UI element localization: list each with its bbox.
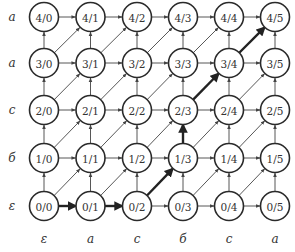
- edge-arrow: [101, 74, 127, 100]
- node-label: 1/3: [175, 153, 192, 165]
- path-edge-bold: [193, 74, 218, 100]
- grid-node: 2/1: [76, 96, 105, 125]
- node-label: 0/3: [175, 201, 192, 213]
- alignment-grid-diagram: 0/00/10/20/30/40/51/01/11/21/31/41/52/02…: [0, 0, 295, 252]
- grid-node: 0/0: [30, 192, 59, 221]
- edge-arrow: [193, 169, 219, 196]
- nodes-layer: 0/00/10/20/30/40/51/01/11/21/31/41/52/02…: [30, 3, 290, 221]
- node-label: 4/4: [221, 12, 238, 24]
- row-label: a: [8, 10, 15, 24]
- grid-node: 0/4: [215, 192, 244, 221]
- column-label: c: [226, 232, 233, 246]
- path-edge-bold: [147, 169, 173, 196]
- node-label: 0/0: [36, 201, 53, 213]
- edge-arrow: [54, 28, 80, 53]
- grid-node: 1/4: [215, 144, 244, 173]
- node-label: 0/5: [267, 201, 284, 213]
- node-label: 1/0: [36, 153, 53, 165]
- edge-arrow: [101, 28, 127, 53]
- edge-arrow: [101, 121, 127, 148]
- grid-node: 2/5: [261, 96, 290, 125]
- node-label: 3/1: [82, 58, 99, 70]
- node-label: 3/5: [267, 58, 284, 70]
- node-label: 4/1: [82, 12, 99, 24]
- grid-node: 1/2: [123, 144, 152, 173]
- grid-node: 1/1: [76, 144, 105, 173]
- edge-arrow: [239, 169, 265, 196]
- node-label: 2/0: [36, 105, 53, 117]
- edge-arrow: [193, 121, 219, 148]
- grid-node: 3/5: [261, 49, 290, 78]
- node-label: 4/3: [175, 12, 192, 24]
- node-label: 2/4: [221, 105, 238, 117]
- node-label: 4/0: [36, 12, 53, 24]
- path-edge-bold: [239, 28, 264, 53]
- edge-arrow: [239, 121, 265, 148]
- edge-arrow: [54, 169, 80, 196]
- node-label: 3/3: [175, 58, 192, 70]
- edge-arrow: [54, 121, 80, 148]
- node-label: 3/0: [36, 58, 53, 70]
- edge-arrow: [147, 28, 172, 53]
- node-label: 1/4: [221, 153, 238, 165]
- node-label: 0/4: [221, 201, 238, 213]
- grid-node: 4/2: [123, 3, 152, 32]
- node-label: 1/1: [82, 153, 99, 165]
- row-label: ε: [9, 199, 15, 213]
- edge-arrow: [193, 28, 218, 53]
- node-label: 4/5: [267, 12, 284, 24]
- grid-node: 0/1: [76, 192, 105, 221]
- column-label: a: [271, 232, 278, 246]
- column-label: c: [134, 232, 141, 246]
- grid-node: 3/4: [215, 49, 244, 78]
- column-label: б: [179, 232, 187, 246]
- grid-node: 2/4: [215, 96, 244, 125]
- edge-arrow: [101, 169, 127, 196]
- node-label: 1/5: [267, 153, 284, 165]
- grid-node: 3/1: [76, 49, 105, 78]
- node-label: 3/4: [221, 58, 238, 70]
- grid-node: 4/1: [76, 3, 105, 32]
- edge-arrow: [54, 74, 80, 100]
- node-label: 2/3: [175, 105, 192, 117]
- node-label: 3/2: [129, 58, 146, 70]
- grid-node: 2/2: [123, 96, 152, 125]
- column-label: ε: [41, 232, 47, 246]
- edge-arrow: [147, 74, 172, 100]
- node-label: 0/1: [82, 201, 99, 213]
- row-label: c: [9, 103, 16, 117]
- grid-node: 0/5: [261, 192, 290, 221]
- column-label: a: [87, 232, 94, 246]
- grid-node: 2/3: [169, 96, 198, 125]
- node-label: 2/5: [267, 105, 284, 117]
- grid-node: 1/0: [30, 144, 59, 173]
- grid-node: 3/0: [30, 49, 59, 78]
- grid-node: 3/2: [123, 49, 152, 78]
- grid-node: 0/2: [123, 192, 152, 221]
- grid-node: 4/3: [169, 3, 198, 32]
- row-label: a: [8, 56, 15, 70]
- grid-node: 1/5: [261, 144, 290, 173]
- edge-arrow: [239, 74, 264, 100]
- grid-node: 1/3: [169, 144, 198, 173]
- grid-node: 0/3: [169, 192, 198, 221]
- grid-node: 4/0: [30, 3, 59, 32]
- grid-node: 4/4: [215, 3, 244, 32]
- grid-node: 2/0: [30, 96, 59, 125]
- node-label: 2/2: [129, 105, 146, 117]
- node-label: 4/2: [129, 12, 146, 24]
- node-label: 0/2: [129, 201, 146, 213]
- edge-arrow: [147, 121, 173, 148]
- grid-node: 3/3: [169, 49, 198, 78]
- node-label: 2/1: [82, 105, 99, 117]
- row-label: б: [8, 151, 16, 165]
- node-label: 1/2: [129, 153, 146, 165]
- grid-node: 4/5: [261, 3, 290, 32]
